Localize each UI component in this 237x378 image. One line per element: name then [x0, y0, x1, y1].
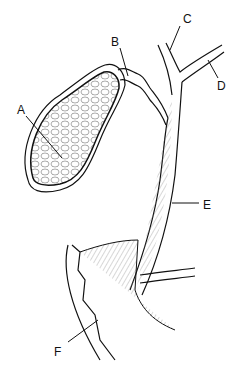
label-a: A: [17, 104, 25, 116]
label-e: E: [203, 199, 211, 211]
cystic-duct: [118, 69, 168, 125]
label-f: F: [54, 346, 61, 358]
anatomy-drawing: [0, 0, 237, 378]
label-b: B: [111, 36, 119, 48]
label-c: C: [183, 13, 192, 25]
hepatic-ducts: [158, 43, 224, 95]
gallbladder: [25, 64, 125, 192]
common-bile-duct: [130, 82, 182, 295]
label-d: D: [217, 80, 226, 92]
duodenum: [66, 240, 175, 360]
